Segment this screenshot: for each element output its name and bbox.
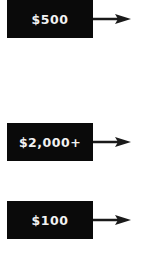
- amount-item-500: $500: [7, 0, 133, 38]
- arrow-right-icon: [93, 135, 133, 149]
- amount-item-2000-plus: $2,000+: [7, 123, 133, 161]
- amount-label: $2,000+: [7, 123, 93, 161]
- amount-label: $100: [7, 201, 93, 239]
- amount-item-100: $100: [7, 201, 133, 239]
- arrow-right-icon: [93, 12, 133, 26]
- amount-label: $500: [7, 0, 93, 38]
- arrow-right-icon: [93, 213, 133, 227]
